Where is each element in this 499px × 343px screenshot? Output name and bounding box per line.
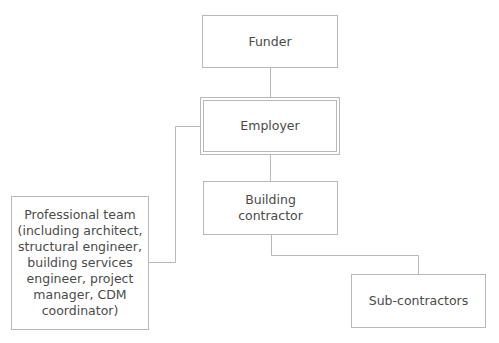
connector-employer-professional: [148, 127, 200, 263]
employer-node: Employer: [200, 97, 340, 155]
sub-contractors-label: Sub-contractors: [369, 293, 469, 309]
professional-team-label: Professional team (including architect, …: [18, 207, 143, 319]
professional-team-node: Professional team (including architect, …: [11, 196, 149, 330]
building-contractor-label: Building contractor: [238, 192, 303, 224]
funder-node: Funder: [202, 15, 338, 68]
connector-contractor-subcontractors: [272, 235, 419, 274]
employer-label: Employer: [240, 118, 299, 134]
funder-label: Funder: [248, 34, 291, 50]
sub-contractors-node: Sub-contractors: [351, 274, 486, 328]
building-contractor-node: Building contractor: [203, 181, 338, 235]
